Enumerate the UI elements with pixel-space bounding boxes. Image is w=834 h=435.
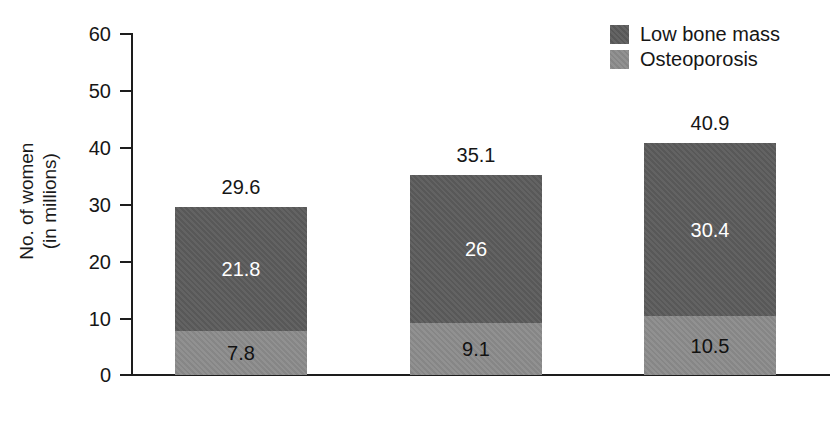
y-axis-tick-0: 0 [120, 374, 132, 376]
stacked-bar-chart: No. of women (in millions) 60 50 40 30 2… [0, 0, 834, 435]
bar-group-2002[interactable]: 29.6 21.8 7.8 2002 [175, 207, 307, 375]
bar-segment-value-low-bone-mass-2020: 30.4 [691, 220, 730, 240]
bar-segment-osteoporosis-2020[interactable]: 10.5 [644, 316, 776, 375]
y-axis-tick-50: 50 [120, 90, 132, 92]
plot-area: 29.6 21.8 7.8 2002 35.1 26 9.1 2010 40.9 [133, 33, 830, 375]
bar-segment-low-bone-mass-2002[interactable]: 21.8 [175, 207, 307, 331]
y-axis-tick-label-0: 0 [100, 364, 120, 387]
y-axis-title: No. of women (in millions) [15, 101, 61, 301]
bar-segment-osteoporosis-2010[interactable]: 9.1 [410, 323, 542, 375]
y-axis-tick-label-30: 30 [89, 194, 120, 217]
y-axis-tick-60: 60 [120, 33, 132, 35]
legend-swatch-low-bone-mass-icon [610, 25, 629, 44]
y-axis-title-line-1: No. of women [16, 143, 37, 260]
legend: Low bone mass Osteoporosis [610, 22, 780, 72]
legend-label-low-bone-mass: Low bone mass [640, 23, 780, 46]
bar-group-2020[interactable]: 40.9 30.4 10.5 2020 [644, 143, 776, 375]
bar-segment-value-low-bone-mass-2010: 26 [465, 239, 487, 259]
y-axis-tick-label-60: 60 [89, 23, 120, 46]
bar-segment-value-low-bone-mass-2002: 21.8 [222, 259, 261, 279]
legend-label-osteoporosis: Osteoporosis [640, 48, 758, 71]
y-axis-tick-label-40: 40 [89, 137, 120, 160]
y-axis-tick-10: 10 [120, 318, 132, 320]
bar-segment-low-bone-mass-2010[interactable]: 26 [410, 175, 542, 323]
y-axis-tick-label-50: 50 [89, 80, 120, 103]
y-axis-tick-40: 40 [120, 147, 132, 149]
bar-segment-value-osteoporosis-2002: 7.8 [227, 343, 255, 363]
y-axis-tick-label-10: 10 [89, 308, 120, 331]
bar-segment-value-osteoporosis-2020: 10.5 [691, 336, 730, 356]
bar-total-label-2020: 40.9 [644, 112, 776, 135]
bar-segment-value-osteoporosis-2010: 9.1 [462, 339, 490, 359]
bar-total-label-2010: 35.1 [410, 144, 542, 167]
legend-item-low-bone-mass[interactable]: Low bone mass [610, 22, 780, 47]
bar-total-label-2002: 29.6 [175, 176, 307, 199]
bar-segment-low-bone-mass-2020[interactable]: 30.4 [644, 143, 776, 316]
y-axis-tick-30: 30 [120, 204, 132, 206]
y-axis-tick-20: 20 [120, 261, 132, 263]
y-axis-tick-label-20: 20 [89, 251, 120, 274]
legend-item-osteoporosis[interactable]: Osteoporosis [610, 47, 780, 72]
bar-group-2010[interactable]: 35.1 26 9.1 2010 [410, 175, 542, 375]
legend-swatch-osteoporosis-icon [610, 50, 629, 69]
bar-segment-osteoporosis-2002[interactable]: 7.8 [175, 331, 307, 375]
y-axis-title-line-2: (in millions) [38, 101, 61, 301]
